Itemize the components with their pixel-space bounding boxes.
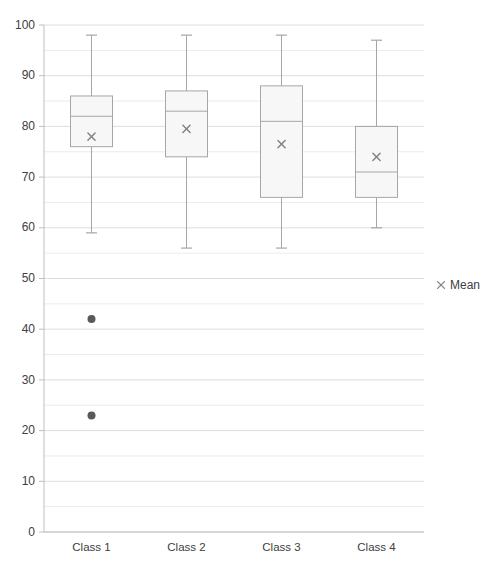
- x-axis-ticks: Class 1Class 2Class 3Class 4: [72, 541, 396, 553]
- box-plot-item: [356, 40, 398, 228]
- outlier-point: [88, 411, 96, 419]
- y-tick-label: 90: [22, 68, 36, 82]
- box-body: [71, 96, 113, 147]
- outlier-point: [88, 315, 96, 323]
- box-plot-item: [166, 35, 208, 248]
- y-tick-label: 80: [22, 119, 36, 133]
- x-tick-label: Class 3: [262, 541, 300, 553]
- y-tick-label: 30: [22, 373, 36, 387]
- box-plot-chart: 1009080706050403020100 Class 1Class 2Cla…: [0, 0, 498, 568]
- box-plot-item: [71, 35, 113, 419]
- y-tick-label: 70: [22, 170, 36, 184]
- box-plot-series: [71, 35, 398, 419]
- y-tick-label: 20: [22, 423, 36, 437]
- x-tick-label: Class 1: [72, 541, 110, 553]
- box-body: [166, 91, 208, 157]
- y-tick-label: 50: [22, 271, 36, 285]
- y-axis-ticks: 1009080706050403020100: [15, 18, 44, 539]
- box-body: [261, 86, 303, 198]
- legend-mean-marker-icon: [438, 282, 445, 289]
- y-tick-label: 40: [22, 322, 36, 336]
- x-tick-label: Class 4: [357, 541, 396, 553]
- y-tick-label: 100: [15, 18, 35, 32]
- plot-canvas: 1009080706050403020100 Class 1Class 2Cla…: [0, 0, 498, 568]
- legend-label: Mean: [450, 278, 480, 292]
- box-plot-item: [261, 35, 303, 248]
- y-tick-label: 0: [28, 525, 35, 539]
- box-body: [356, 126, 398, 197]
- x-tick-label: Class 2: [167, 541, 205, 553]
- y-tick-label: 10: [22, 474, 36, 488]
- legend: Mean: [438, 278, 480, 292]
- y-tick-label: 60: [22, 220, 36, 234]
